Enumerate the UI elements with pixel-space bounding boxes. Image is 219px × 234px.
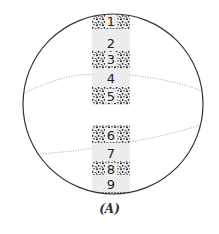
band-label-6: 6	[107, 128, 115, 143]
band-label-9: 9	[107, 177, 115, 192]
band-label-8: 8	[107, 162, 115, 177]
band-label-1: 1	[107, 14, 115, 29]
band-label-5: 5	[107, 89, 115, 104]
band-label-2: 2	[107, 36, 115, 51]
cell-diagram: 1 2 3 4 5 6 7 8 9	[0, 0, 219, 234]
figure-caption: (A)	[0, 202, 219, 216]
band-label-4: 4	[107, 71, 115, 86]
band-label-7: 7	[107, 146, 115, 161]
band-label-3: 3	[107, 52, 115, 67]
